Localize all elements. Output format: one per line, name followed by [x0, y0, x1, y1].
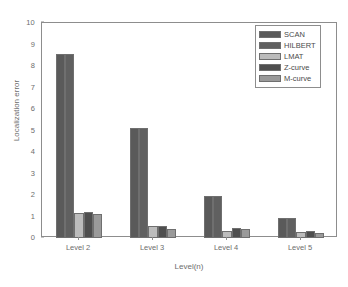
y-tick-label: 8 [31, 61, 35, 70]
bar [93, 214, 102, 238]
x-tick-label: Level 5 [288, 243, 312, 252]
legend-label: HILBERT [284, 40, 316, 51]
bar [74, 213, 83, 238]
y-tick-label: 6 [31, 104, 35, 113]
x-axis-label: Level(n) [41, 262, 337, 271]
x-tick-label: Level 3 [140, 243, 164, 252]
bar [213, 196, 222, 238]
legend-item[interactable]: LMAT [259, 51, 316, 62]
x-axis: Level 2Level 3Level 4Level 5 [41, 237, 337, 257]
y-tick-label: 10 [26, 18, 35, 27]
legend-swatch-icon [259, 53, 281, 60]
y-axis-label: Localization error [12, 51, 21, 171]
y-tick-label: 3 [31, 168, 35, 177]
y-tick-label: 7 [31, 82, 35, 91]
bar [204, 196, 213, 238]
legend-label: Z-curve [284, 62, 309, 73]
x-tick-label: Level 4 [214, 243, 238, 252]
bar [130, 128, 139, 238]
y-axis: 012345678910 [0, 22, 41, 237]
legend-item[interactable]: M-curve [259, 73, 316, 84]
bar [65, 54, 74, 238]
bar [287, 218, 296, 238]
y-tick-label: 2 [31, 190, 35, 199]
legend-label: LMAT [284, 51, 303, 62]
x-tick-mark [300, 237, 301, 240]
legend-item[interactable]: SCAN [259, 29, 316, 40]
x-tick-mark [152, 237, 153, 240]
x-tick-mark [226, 237, 227, 240]
figure: 012345678910 Localization error Level 2L… [0, 0, 348, 287]
x-tick-label: Level 2 [66, 243, 90, 252]
y-tick-label: 1 [31, 211, 35, 220]
legend-swatch-icon [259, 75, 281, 82]
bar [56, 54, 65, 238]
legend-swatch-icon [259, 64, 281, 71]
bar [84, 212, 93, 238]
y-tick-label: 4 [31, 147, 35, 156]
y-tick-label: 5 [31, 125, 35, 134]
legend-label: SCAN [284, 29, 305, 40]
legend: SCANHILBERTLMATZ-curveM-curve [255, 25, 321, 88]
x-tick-mark [78, 237, 79, 240]
legend-swatch-icon [259, 31, 281, 38]
legend-item[interactable]: Z-curve [259, 62, 316, 73]
y-tick-label: 0 [31, 233, 35, 242]
legend-label: M-curve [284, 73, 311, 84]
bar [278, 218, 287, 238]
legend-item[interactable]: HILBERT [259, 40, 316, 51]
y-tick-label: 9 [31, 39, 35, 48]
bar [139, 128, 148, 239]
legend-swatch-icon [259, 42, 281, 49]
